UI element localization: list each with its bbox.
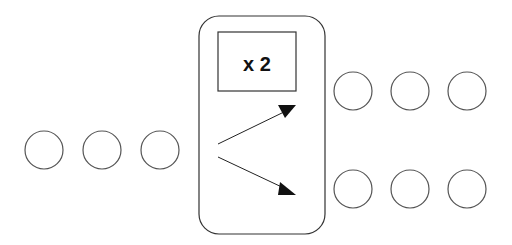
circle-groups — [25, 72, 486, 208]
input-circle — [141, 131, 179, 169]
arrow-up-head-icon — [278, 105, 296, 118]
output-top-circle — [334, 72, 372, 110]
doubling-diagram: x 2 — [0, 0, 512, 245]
multiplier-label: x 2 — [243, 53, 271, 75]
input-circle — [83, 131, 121, 169]
output-top-circle — [448, 72, 486, 110]
input-circle — [25, 131, 63, 169]
arrow-down-head-icon — [278, 182, 296, 195]
arrow-up-line — [218, 111, 286, 144]
output-top-circle — [391, 72, 429, 110]
output-bottom-circle — [448, 170, 486, 208]
arrow-down-line — [218, 157, 286, 189]
diagram-svg: x 2 — [0, 0, 512, 245]
output-bottom-circle — [334, 170, 372, 208]
output-bottom-circle — [391, 170, 429, 208]
